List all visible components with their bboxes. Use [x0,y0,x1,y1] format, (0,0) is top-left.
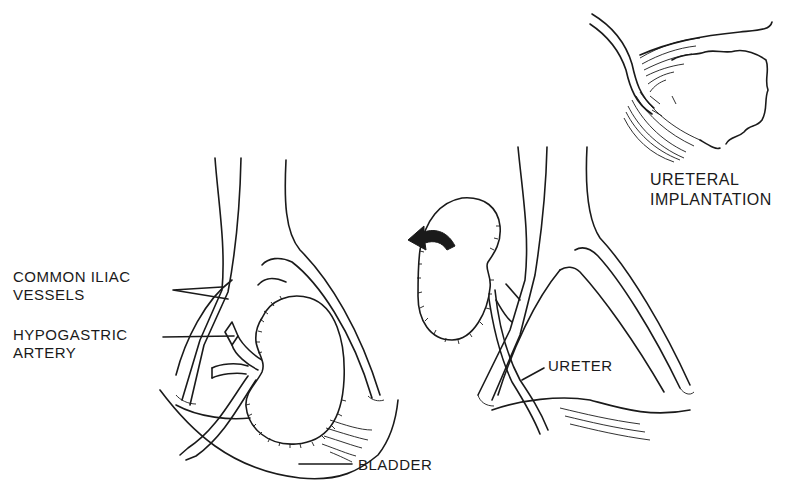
ureter-label: URETER [548,357,613,375]
anatomy-drawing [0,0,809,496]
bladder-label: BLADDER [358,456,432,474]
hypogastric-leader [163,336,234,337]
left-panel-drawing [160,158,398,479]
ureter-leader [522,368,544,380]
common-iliac-leader [173,287,228,299]
ureteral-implantation-label: URETERAL IMPLANTATION [650,170,772,210]
ureteral-implantation-inset [590,14,772,162]
common-iliac-label: COMMON ILIAC VESSELS [13,268,131,304]
illustration-canvas: COMMON ILIAC VESSELS HYPOGASTRIC ARTERY … [0,0,809,496]
hypogastric-label: HYPOGASTRIC ARTERY [13,326,128,362]
